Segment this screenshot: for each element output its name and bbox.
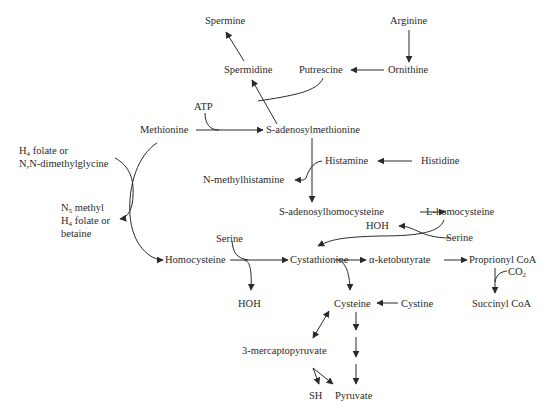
node-cystine: Cystine <box>401 298 433 310</box>
node-putrescine: Putrescine <box>299 64 343 76</box>
methionine-metabolism-diagram: Spermine Arginine Spermidine Putrescine … <box>0 0 558 411</box>
node-cysteine: Cysteine <box>334 298 371 310</box>
arrow-spermidine-spermine <box>226 32 244 61</box>
curve-co2 <box>495 271 507 282</box>
node-serine-left: Serine <box>216 233 243 245</box>
node-cystathionine: Cystathionine <box>290 254 348 266</box>
node-3-mercaptopyruvate: 3-mercaptopyruvate <box>242 345 327 357</box>
node-n-methylhistamine: N-methylhistamine <box>203 174 284 186</box>
arrow-serine-hoh-top <box>399 226 450 238</box>
arrow-cysteine-mercaptopyruvate <box>313 311 329 338</box>
arrow-sam-spermidine <box>252 80 277 124</box>
node-hoh-top: HOH <box>366 220 389 232</box>
node-sh: SH <box>309 390 322 402</box>
arrow-h4folate-n5 <box>115 158 133 219</box>
node-methionine: Methionine <box>140 124 188 136</box>
arrow-histamine-nmethylhistamine <box>295 161 322 180</box>
curve-putrescine <box>258 78 323 101</box>
curve-atp <box>205 113 219 130</box>
node-homocysteine: Homocysteine <box>165 254 226 266</box>
node-s-adenosylhomocysteine: S-adenosylhomocysteine <box>279 206 384 218</box>
node-alpha-ketobutyrate: α-ketobutyrate <box>369 254 430 266</box>
node-succinyl-coa: Succinyl CoA <box>472 298 531 310</box>
node-proprionyl-coa: Proprionyl CoA <box>469 254 536 266</box>
node-pyruvate: Pyruvate <box>335 390 372 402</box>
arrow-to-hoh-bottom <box>244 260 251 290</box>
node-histidine: Histidine <box>421 155 460 167</box>
node-h4folate-or-dimethylglycine: H4 folate or N,N-dimethylglycine <box>19 144 109 170</box>
node-serine-right: Serine <box>446 232 473 244</box>
node-spermine: Spermine <box>205 15 245 27</box>
node-spermidine: Spermidine <box>224 64 272 76</box>
node-ornithine: Ornithine <box>388 64 428 76</box>
node-n5-methyl-h4folate-or-betaine: N5 methyl H4 folate or betaine <box>61 201 110 240</box>
node-histamine: Histamine <box>325 155 368 167</box>
node-s-adenosylmethionine: S-adenosylmethionine <box>266 124 360 136</box>
arrow-methionine-homocysteine <box>130 143 163 260</box>
node-l-homocysteine: L-homocysteine <box>426 206 494 218</box>
node-hoh-bottom: HOH <box>238 298 261 310</box>
node-atp: ATP <box>194 101 213 113</box>
node-arginine: Arginine <box>390 15 427 27</box>
node-co2: CO2 <box>508 266 526 278</box>
